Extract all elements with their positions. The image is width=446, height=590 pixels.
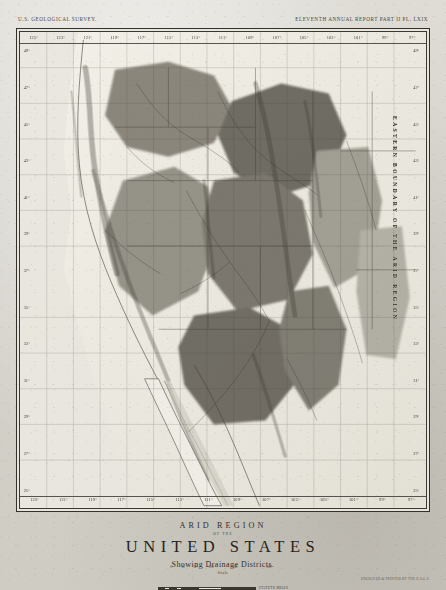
eastern-boundary-label: EASTERN BOUNDARY OF THE ARID REGION [392, 116, 398, 321]
latitude-tick-label: 41° [24, 194, 30, 199]
longitude-tick-label: 117° [137, 35, 146, 40]
latitude-tick-label: 31° [24, 377, 30, 382]
running-head-left: U.S. GEOLOGICAL SURVEY. [18, 16, 97, 22]
latitude-tick-label: 27° [24, 450, 30, 455]
latitude-tick-label: 33° [24, 341, 30, 346]
latitude-tick-label: 29° [24, 414, 30, 419]
title-block: ARID REGION OF THE UNITED STATES Showing… [0, 521, 446, 569]
latitude-tick-label: 49° [413, 48, 419, 53]
longitude-tick-label: 111° [219, 35, 228, 40]
longitude-tick-label: 123° [56, 35, 65, 40]
latitude-tick-label: 25° [24, 487, 30, 492]
engraver-credit: ENGRAVED & PRINTED BY THE U.S.G.S. [361, 577, 430, 581]
scale-tick-label: 200 [233, 565, 238, 569]
latitude-tick-label: 33° [413, 341, 419, 346]
latitude-tick-label: 49° [24, 48, 30, 53]
latitude-tick-label: 47° [413, 85, 419, 90]
latitude-tick-label: 37° [24, 268, 30, 273]
longitude-tick-label: 101° [354, 35, 363, 40]
longitude-tick-label: 99° [382, 35, 389, 40]
scale-tick-label: 100 [209, 565, 214, 569]
longitude-tick-label: 119° [110, 35, 119, 40]
longitude-tick-label: 103° [327, 35, 336, 40]
map-frame-inner-rule: EASTERN BOUNDARY OF THE ARID REGION 125°… [19, 31, 427, 509]
latitude-tick-label: 41° [413, 194, 419, 199]
longitude-tick-label: 121° [83, 35, 92, 40]
latitude-tick-label: 43° [413, 158, 419, 163]
title-arid-region: ARID REGION [0, 521, 446, 530]
scale-tick-labels: 02550100200300 [171, 565, 275, 570]
longitude-tick-label: 113° [175, 497, 184, 502]
latitude-tick-label: 39° [413, 231, 419, 236]
map-drawing [20, 32, 426, 508]
latitude-tick-label: 43° [24, 158, 30, 163]
latitude-tick-label: 45° [413, 121, 419, 126]
latitude-tick-rail-right: 49°47°45°43°41°39°37°35°33°31°29°27°25° [413, 32, 422, 508]
scale-tick-label: 300 [267, 565, 272, 569]
scale-segment [182, 587, 198, 590]
latitude-tick-label: 31° [413, 377, 419, 382]
longitude-tick-label: 101° [349, 497, 358, 502]
scale-bar: STATUTE MILES [158, 586, 288, 590]
title-of-the: OF THE [0, 532, 446, 536]
longitude-tick-label: 107° [262, 497, 271, 502]
longitude-tick-rail-top: 125°123°121°119°117°115°113°111°109°107°… [20, 35, 426, 43]
longitude-tick-rail-bottom: 123°121°119°117°115°113°111°109°107°105°… [20, 497, 426, 505]
longitude-tick-label: 117° [117, 497, 126, 502]
plate-page: U.S. GEOLOGICAL SURVEY. ELEVENTH ANNUAL … [0, 0, 446, 590]
latitude-tick-label: 27° [413, 450, 419, 455]
longitude-tick-label: 115° [165, 35, 174, 40]
latitude-tick-label: 25° [413, 487, 419, 492]
scale-label: Scale [0, 570, 446, 575]
latitude-tick-label: 35° [24, 304, 30, 309]
scale-segment [198, 587, 222, 590]
latitude-tick-label: 35° [413, 304, 419, 309]
latitude-tick-rail-left: 49°47°45°43°41°39°37°35°33°31°29°27°25° [24, 32, 33, 508]
scale-tick-label: 0 [170, 565, 172, 569]
longitude-tick-label: 119° [88, 497, 97, 502]
longitude-tick-label: 111° [204, 497, 213, 502]
longitude-tick-label: 113° [192, 35, 201, 40]
latitude-tick-label: 47° [24, 85, 30, 90]
latitude-tick-label: 45° [24, 121, 30, 126]
scale-units-label: STATUTE MILES [259, 586, 288, 590]
scale-tick-label: 50 [193, 565, 196, 569]
longitude-tick-label: 115° [146, 497, 155, 502]
longitude-tick-label: 109° [246, 35, 255, 40]
latitude-tick-label: 39° [24, 231, 30, 236]
latitude-tick-label: 29° [413, 414, 419, 419]
longitude-tick-label: 103° [320, 497, 329, 502]
latitude-tick-label: 37° [413, 268, 419, 273]
longitude-tick-label: 109° [233, 497, 242, 502]
map-plate: EASTERN BOUNDARY OF THE ARID REGION [20, 32, 426, 508]
longitude-tick-label: 105° [300, 35, 309, 40]
scale-segment [222, 587, 256, 590]
scale-tick-label: 25 [181, 565, 184, 569]
map-frame: EASTERN BOUNDARY OF THE ARID REGION 125°… [16, 28, 430, 512]
longitude-tick-label: 105° [291, 497, 300, 502]
running-head-right: ELEVENTH ANNUAL REPORT PART II PL. LXIX [295, 16, 428, 22]
longitude-tick-label: 99° [379, 497, 386, 502]
longitude-tick-label: 121° [59, 497, 68, 502]
longitude-tick-label: 107° [273, 35, 282, 40]
title-united-states: UNITED STATES [0, 537, 446, 557]
